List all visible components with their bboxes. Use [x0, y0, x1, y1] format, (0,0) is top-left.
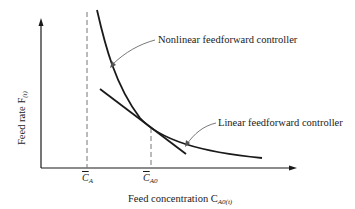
linear-line: [100, 89, 186, 154]
nonlinear-curve: [97, 10, 262, 158]
diagram-canvas: [0, 0, 355, 209]
nonlinear-leader: [112, 40, 155, 65]
linear-leader: [187, 123, 216, 144]
linear-label: Linear feedforward controller: [218, 118, 343, 129]
x-axis-arrow-icon: [289, 166, 297, 171]
nonlinear-label: Nonlinear feedforward controller: [158, 35, 297, 46]
y-axis-label: Feed rate F(t): [17, 91, 29, 145]
y-axis-arrow-icon: [39, 18, 44, 26]
tick-ca: CA: [82, 173, 93, 185]
x-axis-label: Feed concentration CA0(t): [128, 194, 232, 206]
tick-ca0: CA0: [143, 173, 157, 185]
